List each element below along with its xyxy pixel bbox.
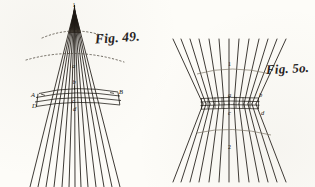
fig50-ray — [239, 39, 249, 104]
fig49-label-band-right: B — [119, 89, 123, 96]
fig50-ray — [181, 39, 206, 104]
fig49-label-band-lower-center: d — [73, 106, 76, 113]
fig50-ray — [181, 104, 206, 182]
fig50-label-waist-upper-right: b — [259, 92, 262, 99]
fig50-ray — [219, 104, 224, 182]
fig50-ray — [252, 104, 277, 182]
fig50-ray — [173, 104, 203, 182]
fig50-waist-hline — [201, 105, 260, 106]
fig49-label-band-left: A — [31, 92, 35, 99]
fig50-ray — [190, 104, 210, 182]
fig50-label-waist-lower-center: c — [228, 110, 231, 117]
fig49-caption: Fig. 49. — [94, 28, 140, 47]
fig50-ray — [244, 104, 259, 182]
fig49-label-band-top: b — [73, 79, 76, 86]
plate-linework — [0, 0, 315, 187]
engraving-plate: Fig. 49. Fig. 5o. 1 a b c B A D d 1 2 a … — [0, 0, 315, 187]
fig50-ray — [244, 39, 259, 104]
fig49-label-band-center: c — [72, 98, 75, 105]
fig50-ray — [248, 104, 268, 182]
fig50-ray — [234, 39, 239, 104]
fig50-label-waist-upper-center: a — [228, 92, 231, 99]
fig50-faint-arc-upper — [197, 69, 271, 74]
fig50-ray — [239, 104, 249, 182]
fig50-ray — [173, 39, 203, 104]
fig50-ray — [234, 104, 239, 182]
fig50-ray — [209, 104, 219, 182]
fig49-label-band-lower-left: D — [32, 103, 37, 110]
fig50-ray — [209, 39, 219, 104]
fig50-caption: Fig. 5o. — [266, 60, 310, 78]
fig49-label-axis-mid: a — [72, 63, 75, 70]
fig49-label-apex: 1 — [73, 2, 76, 8]
fig50-label-upper-axis: 1 — [228, 61, 231, 67]
fig50-ray — [219, 39, 224, 104]
fig50-label-lower-axis: 2 — [228, 144, 231, 150]
fig50-ray — [199, 104, 214, 182]
fig50-label-waist-lower-right: d — [261, 110, 264, 117]
